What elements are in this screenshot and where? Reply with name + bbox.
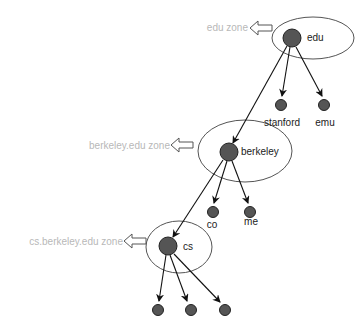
cs-zone-arrow-icon	[124, 234, 146, 248]
label-edu: edu	[307, 32, 324, 43]
node-cs-child-3	[220, 305, 231, 316]
node-edu	[283, 29, 301, 47]
berkeley-zone-arrow-icon	[171, 138, 193, 152]
label-co: co	[207, 219, 218, 230]
label-emu: emu	[315, 117, 334, 128]
cs-zone-label: cs.berkeley.edu zone	[29, 236, 123, 247]
label-me: me	[244, 216, 258, 227]
label-berkeley: berkeley	[241, 146, 279, 157]
node-cs	[159, 237, 177, 255]
edge-edu-emu	[296, 47, 322, 96]
edge-cs-child-2	[170, 255, 187, 301]
edge-berkeley-co	[214, 161, 227, 203]
label-stanford: stanford	[264, 117, 300, 128]
diagram-svg: edu zone berkeley.edu zone cs.berkeley.e…	[0, 0, 363, 333]
node-cs-child-2	[186, 305, 197, 316]
cs-zone-ellipse	[146, 221, 212, 273]
label-cs: cs	[183, 241, 193, 252]
edu-zone-arrow-icon	[250, 21, 272, 35]
edge-cs-child-3	[174, 254, 220, 302]
node-emu	[319, 100, 330, 111]
berkeley-zone-label: berkeley.edu zone	[89, 140, 170, 151]
dns-zone-diagram: edu zone berkeley.edu zone cs.berkeley.e…	[0, 0, 363, 333]
edge-cs-child-1	[159, 255, 166, 301]
node-stanford	[276, 100, 287, 111]
node-berkeley	[220, 143, 238, 161]
edges	[159, 46, 322, 302]
node-cs-child-1	[153, 305, 164, 316]
edge-edu-berkeley	[233, 46, 287, 143]
edu-zone-label: edu zone	[207, 22, 249, 33]
node-co	[208, 207, 219, 218]
